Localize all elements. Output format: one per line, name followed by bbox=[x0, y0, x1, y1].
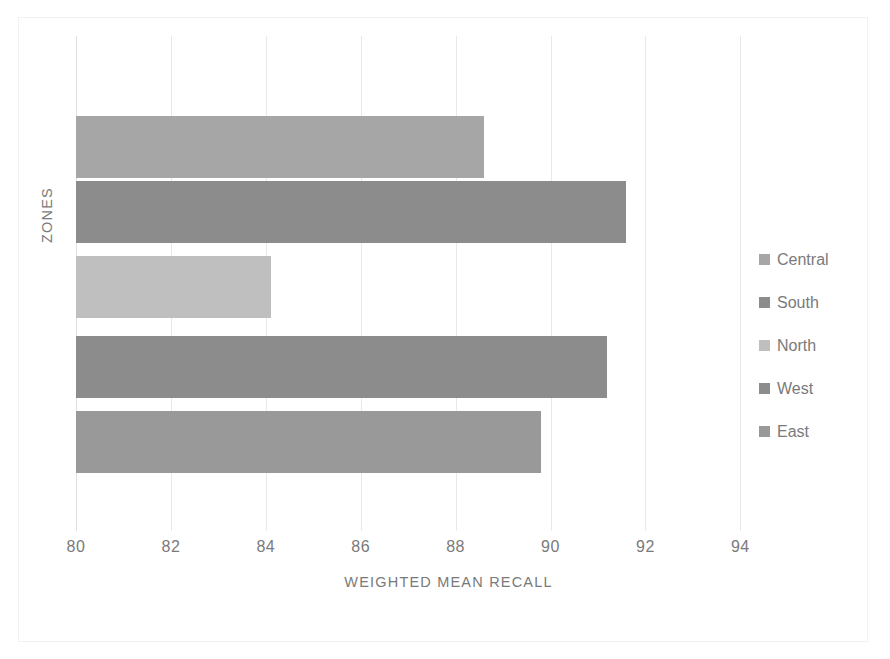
bar-north[interactable] bbox=[76, 256, 271, 318]
bar-west[interactable] bbox=[76, 336, 607, 398]
bar-row-north bbox=[76, 256, 821, 318]
bar-row-east bbox=[76, 411, 821, 473]
bar-series-layer bbox=[76, 36, 821, 531]
x-axis-title: WEIGHTED MEAN RECALL bbox=[76, 574, 821, 590]
legend-label: North bbox=[777, 337, 816, 355]
x-tick-label-94: 94 bbox=[731, 538, 750, 556]
x-tick-label-82: 82 bbox=[161, 538, 180, 556]
x-tick-label-88: 88 bbox=[446, 538, 465, 556]
legend-label: Central bbox=[777, 251, 829, 269]
bar-row-central bbox=[76, 116, 821, 178]
x-axis-tick-labels: 8082848688909294 bbox=[76, 538, 821, 562]
bar-row-south bbox=[76, 181, 821, 243]
legend-label: West bbox=[777, 380, 813, 398]
x-tick-label-84: 84 bbox=[256, 538, 275, 556]
x-tick-label-86: 86 bbox=[351, 538, 370, 556]
legend-swatch-icon bbox=[759, 340, 770, 351]
legend-item-central[interactable]: Central bbox=[759, 238, 869, 281]
chart-container: 8082848688909294 WEIGHTED MEAN RECALL ZO… bbox=[18, 17, 868, 642]
legend-item-east[interactable]: East bbox=[759, 410, 869, 453]
plot-area bbox=[76, 36, 821, 531]
legend-label: South bbox=[777, 294, 819, 312]
legend-item-north[interactable]: North bbox=[759, 324, 869, 367]
legend-swatch-icon bbox=[759, 297, 770, 308]
bar-central[interactable] bbox=[76, 116, 484, 178]
x-tick-label-92: 92 bbox=[636, 538, 655, 556]
x-tick-label-80: 80 bbox=[67, 538, 86, 556]
legend-label: East bbox=[777, 423, 809, 441]
legend-swatch-icon bbox=[759, 383, 770, 394]
legend-item-south[interactable]: South bbox=[759, 281, 869, 324]
bar-south[interactable] bbox=[76, 181, 626, 243]
x-tick-label-90: 90 bbox=[541, 538, 560, 556]
y-axis-title: ZONES bbox=[39, 187, 55, 243]
chart-legend: CentralSouthNorthWestEast bbox=[759, 238, 869, 453]
legend-swatch-icon bbox=[759, 426, 770, 437]
bar-east[interactable] bbox=[76, 411, 541, 473]
bar-row-west bbox=[76, 336, 821, 398]
legend-swatch-icon bbox=[759, 254, 770, 265]
legend-item-west[interactable]: West bbox=[759, 367, 869, 410]
